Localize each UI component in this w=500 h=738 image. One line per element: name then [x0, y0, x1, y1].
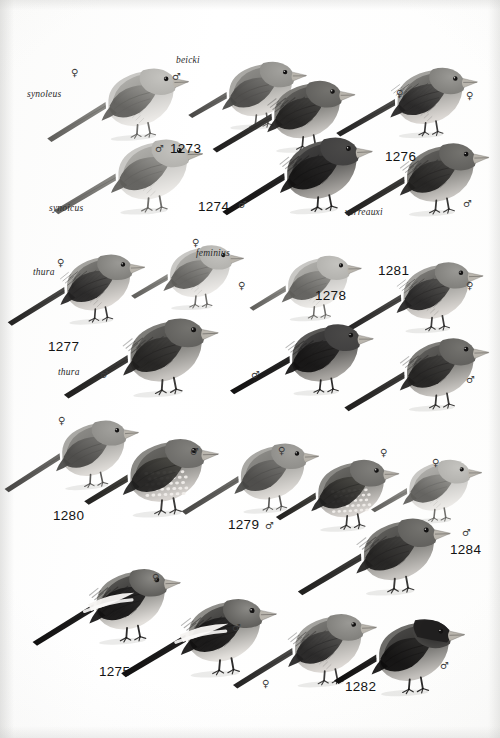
- taxon-label-thura-2: thura: [58, 368, 80, 378]
- female-symbol-icon: ♀: [466, 281, 473, 291]
- female-symbol-icon: ♀: [380, 448, 387, 458]
- female-symbol-icon: ♀: [57, 258, 64, 268]
- taxon-label-synoleus: synoleus: [27, 90, 61, 100]
- rosefinch-thura-male: [76, 295, 227, 413]
- rosefinch-blackhead-male-1282: [327, 594, 473, 713]
- taxon-label-synoicus: synoicus: [49, 204, 83, 214]
- plate-number-1277: 1277: [48, 340, 79, 354]
- plate-number-1274: 1274: [198, 200, 229, 214]
- female-symbol-icon: ♀: [152, 573, 159, 583]
- female-symbol-icon: ♀: [432, 458, 439, 468]
- plate-number-1273: 1273: [170, 142, 201, 156]
- male-symbol-icon: ♂: [100, 370, 109, 380]
- scan-edge-shadow-bottom: [0, 726, 500, 738]
- female-symbol-icon: ♀: [466, 91, 473, 101]
- female-symbol-icon: ♀: [278, 446, 285, 456]
- plate-number-1280: 1280: [53, 509, 84, 523]
- female-symbol-icon: ♀: [396, 89, 403, 99]
- plate-number-1278: 1278: [315, 289, 346, 303]
- male-symbol-icon: ♂: [265, 521, 274, 531]
- taxon-label-feminius: feminius: [196, 249, 230, 259]
- male-symbol-icon: ♂: [440, 661, 449, 671]
- female-symbol-icon: ♀: [58, 416, 65, 426]
- male-symbol-icon: ♂: [172, 72, 181, 82]
- male-symbol-icon: ♂: [251, 370, 260, 380]
- male-symbol-icon: ♂: [463, 199, 472, 209]
- plate-number-1276: 1276: [385, 150, 416, 164]
- female-symbol-icon: ♀: [192, 238, 199, 248]
- male-symbol-icon: ♂: [155, 144, 164, 154]
- plate-number-1281: 1281: [378, 264, 409, 278]
- plate-number-1284: 1284: [450, 543, 481, 557]
- female-symbol-icon: ♀: [71, 68, 78, 78]
- rosefinch-pale-male-upper-left: [67, 114, 211, 231]
- taxon-label-thura-1: thura: [33, 268, 55, 278]
- male-symbol-icon: ♂: [466, 375, 475, 385]
- male-symbol-icon: ♂: [462, 528, 471, 538]
- taxon-label-beicki: beicki: [176, 56, 200, 66]
- scan-edge-shadow-left: [0, 0, 14, 738]
- male-symbol-icon: ♂: [232, 623, 241, 633]
- male-symbol-icon: ♂: [238, 200, 247, 210]
- scan-edge-shadow-top: [0, 0, 500, 10]
- female-symbol-icon: ♀: [262, 679, 269, 689]
- taxon-label-verreauxi: verreauxi: [345, 208, 383, 218]
- rosefinch-male-1284: [307, 496, 462, 610]
- plate-number-1275: 1275: [99, 665, 130, 679]
- field-guide-plate: synoleusbeickisynoicusverreauxithurafemi…: [0, 0, 500, 738]
- male-symbol-icon: ♂: [190, 447, 199, 457]
- rosefinch-spotted-male-1280: [77, 414, 227, 533]
- rosefinch-dark-male-1281: [357, 315, 496, 428]
- plate-number-1282: 1282: [345, 680, 376, 694]
- plate-number-1279: 1279: [228, 518, 259, 532]
- female-symbol-icon: ♀: [238, 281, 245, 291]
- mountain-finch-male-1275: [133, 576, 286, 692]
